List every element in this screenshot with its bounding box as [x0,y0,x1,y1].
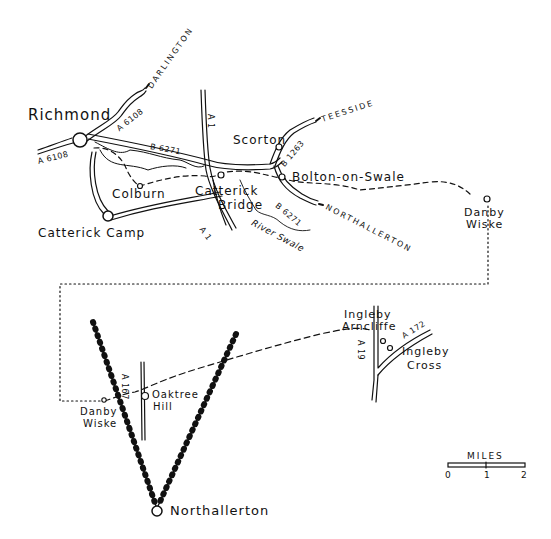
label-ingleby-arncliffe-line2: Arncliffe [342,321,397,332]
town-marker-richmond [73,133,87,147]
label-catterick-bridge-line1: Catterick [195,185,258,197]
town-marker-oaktree-hill [142,393,149,400]
town-marker-bolton-on-swale [279,174,285,180]
label-road-a167: A 167 [120,374,128,400]
label-danby-wiske-bottom-line2: Wiske [83,419,117,429]
label-ingleby-arncliffe-line1: Ingleby [344,309,392,320]
scale-tick-2: 2 [521,471,529,480]
label-road-a19: A 19 [356,340,364,360]
label-northallerton: Northallerton [170,504,269,517]
label-richmond: Richmond [28,108,111,123]
label-oaktree-hill-line1: Oaktree [152,390,199,400]
label-bolton-on-swale: Bolton-on-Swale [292,171,405,183]
label-catterick-camp: Catterick Camp [38,227,145,239]
label-catterick-bridge-line2: Bridge [218,199,263,211]
label-road-a1-top: A 1 [206,114,214,129]
town-marker-ingleby-cross [388,346,393,351]
scale-bar-title: MILES [467,452,504,461]
label-ingleby-cross-line2: Cross [407,360,442,371]
road-richmond-catterick-camp [90,152,108,214]
route-map: Richmond Colburn Catterick Camp Catteric… [0,0,551,539]
label-colburn: Colburn [112,188,166,200]
arrow-northallerton-icon [319,204,323,205]
town-marker-ingleby-arncliffe [381,339,386,344]
label-scorton: Scorton [233,134,286,146]
town-marker-northallerton [152,506,162,516]
road-a167 [141,362,145,440]
label-danby-wiske-top-line2: Wiske [466,219,503,230]
town-marker-danby-wiske-top [484,196,490,202]
label-ingleby-cross-line1: Ingleby [402,346,450,357]
scale-tick-0: 0 [445,471,453,480]
town-marker-danby-wiske-bottom [102,398,106,402]
scale-bar [448,462,525,468]
scale-tick-1: 1 [484,471,492,480]
railway-right [158,334,236,506]
town-marker-catterick-bridge [218,172,224,178]
label-danby-wiske-top-line1: Danby [464,207,505,218]
label-oaktree-hill-line2: Hill [153,402,173,412]
town-marker-catterick-camp [103,211,113,221]
label-danby-wiske-bottom-line1: Danby [80,407,117,417]
arrow-teesside-icon [316,118,320,121]
